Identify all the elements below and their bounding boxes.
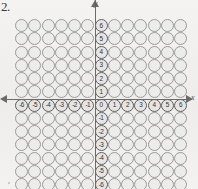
grid-circle[interactable] [121,46,134,59]
grid-circle[interactable] [108,112,121,125]
grid-circle[interactable] [134,165,147,178]
grid-circle[interactable] [81,19,94,32]
grid-circle[interactable] [68,152,81,165]
x-tick-circle-4[interactable]: 4 [148,99,161,112]
grid-circle[interactable] [55,32,68,45]
grid-circle[interactable] [174,152,187,165]
grid-circle[interactable] [15,125,28,138]
x-tick-circle--1[interactable]: -1 [81,99,94,112]
grid-circle[interactable] [68,72,81,85]
grid-circle[interactable] [81,125,94,138]
grid-circle[interactable] [81,32,94,45]
grid-circle[interactable] [42,138,55,151]
grid-circle[interactable] [42,125,55,138]
grid-circle[interactable] [81,138,94,151]
grid-circle[interactable] [42,85,55,98]
grid-circle[interactable] [42,112,55,125]
grid-circle[interactable] [15,152,28,165]
grid-circle[interactable] [42,46,55,59]
grid-circle[interactable] [108,138,121,151]
grid-circle[interactable] [161,165,174,178]
grid-circle[interactable] [55,46,68,59]
grid-circle[interactable] [148,19,161,32]
grid-circle[interactable] [134,178,147,189]
grid-circle[interactable] [161,112,174,125]
grid-circle[interactable] [55,112,68,125]
grid-circle[interactable] [55,178,68,189]
grid-circle[interactable] [161,138,174,151]
grid-circle[interactable] [121,165,134,178]
grid-circle[interactable] [161,85,174,98]
grid-circle[interactable] [81,85,94,98]
y-tick-circle-5[interactable]: 5 [95,32,108,45]
x-tick-circle-1[interactable]: 1 [108,99,121,112]
grid-circle[interactable] [174,178,187,189]
grid-circle[interactable] [42,19,55,32]
grid-circle[interactable] [68,165,81,178]
grid-circle[interactable] [15,165,28,178]
grid-circle[interactable] [121,112,134,125]
grid-circle[interactable] [81,178,94,189]
grid-circle[interactable] [28,46,41,59]
grid-circle[interactable] [55,19,68,32]
grid-circle[interactable] [28,165,41,178]
grid-circle[interactable] [28,59,41,72]
grid-circle[interactable] [161,46,174,59]
grid-circle[interactable] [134,85,147,98]
grid-circle[interactable] [55,138,68,151]
grid-circle[interactable] [68,46,81,59]
grid-circle[interactable] [55,72,68,85]
grid-circle[interactable] [134,32,147,45]
grid-circle[interactable] [108,165,121,178]
grid-circle-origin[interactable]: 0 [95,99,108,112]
x-tick-circle--2[interactable]: -2 [68,99,81,112]
grid-circle[interactable] [108,32,121,45]
grid-circle[interactable] [148,138,161,151]
y-tick-circle-1[interactable]: 1 [95,85,108,98]
grid-circle[interactable] [15,59,28,72]
grid-circle[interactable] [81,165,94,178]
grid-circle[interactable] [68,85,81,98]
grid-circle[interactable] [134,112,147,125]
grid-circle[interactable] [55,165,68,178]
grid-circle[interactable] [108,178,121,189]
grid-circle[interactable] [81,72,94,85]
y-tick-circle-6[interactable]: 6 [95,19,108,32]
grid-circle[interactable] [148,85,161,98]
grid-circle[interactable] [42,72,55,85]
grid-circle[interactable] [148,165,161,178]
grid-circle[interactable] [108,72,121,85]
grid-circle[interactable] [42,152,55,165]
grid-circle[interactable] [148,46,161,59]
y-tick-circle--5[interactable]: -5 [95,165,108,178]
grid-circle[interactable] [81,59,94,72]
grid-circle[interactable] [55,85,68,98]
grid-circle[interactable] [81,152,94,165]
x-tick-circle--4[interactable]: -4 [42,99,55,112]
y-tick-circle--2[interactable]: -2 [95,125,108,138]
x-tick-circle-5[interactable]: 5 [161,99,174,112]
grid-circle[interactable] [174,59,187,72]
x-tick-circle--6[interactable]: -6 [15,99,28,112]
grid-circle[interactable] [42,32,55,45]
grid-circle[interactable] [68,138,81,151]
grid-circle[interactable] [121,178,134,189]
grid-circle[interactable] [108,152,121,165]
grid-circle[interactable] [15,46,28,59]
grid-circle[interactable] [42,165,55,178]
grid-circle[interactable] [174,165,187,178]
grid-circle[interactable] [121,32,134,45]
grid-circle[interactable] [161,32,174,45]
grid-circle[interactable] [81,112,94,125]
y-tick-circle-4[interactable]: 4 [95,46,108,59]
grid-circle[interactable] [108,59,121,72]
grid-circle[interactable] [134,138,147,151]
x-tick-circle--3[interactable]: -3 [55,99,68,112]
grid-circle[interactable] [161,125,174,138]
grid-circle[interactable] [148,72,161,85]
grid-circle[interactable] [134,125,147,138]
grid-circle[interactable] [161,72,174,85]
grid-circle[interactable] [121,138,134,151]
grid-circle[interactable] [148,112,161,125]
grid-circle[interactable] [15,72,28,85]
